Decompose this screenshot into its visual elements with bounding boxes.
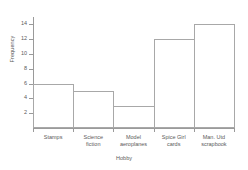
x-axis-tick-label-line: aeroplanes bbox=[113, 141, 153, 148]
x-axis-tick-label: Spice Girlcards bbox=[154, 134, 194, 148]
x-axis-tick-label-line: fiction bbox=[73, 141, 113, 148]
bar bbox=[154, 39, 195, 128]
x-axis-title: Hobby bbox=[0, 155, 248, 161]
bar bbox=[194, 24, 235, 128]
x-axis-tick-mark bbox=[154, 128, 155, 132]
x-axis-line bbox=[33, 128, 234, 129]
y-axis-tick-label: 10 bbox=[14, 51, 27, 57]
x-axis-tick-label-line: Man. Utd bbox=[194, 134, 234, 141]
y-axis-tick-label: 14 bbox=[14, 21, 27, 27]
x-axis-tick-mark bbox=[234, 128, 235, 132]
x-axis-tick-label-line: scrapbook bbox=[194, 141, 234, 148]
bar bbox=[33, 84, 74, 128]
x-axis-tick-label: Modelaeroplanes bbox=[113, 134, 153, 148]
y-axis-tick-label: 6 bbox=[14, 81, 27, 87]
x-axis-tick-label: Man. Utdscrapbook bbox=[194, 134, 234, 148]
y-axis-tick-label: 12 bbox=[14, 36, 27, 42]
x-axis-tick-label: Sciencefiction bbox=[73, 134, 113, 148]
bar bbox=[73, 91, 114, 128]
x-axis-tick-label: Stamps bbox=[33, 134, 73, 141]
y-axis-tick-label: 4 bbox=[14, 95, 27, 101]
x-axis-tick-mark bbox=[33, 128, 34, 132]
x-axis-tick-label-line: Stamps bbox=[33, 134, 73, 141]
y-axis-tick-label: 8 bbox=[14, 66, 27, 72]
bar-chart: Frequency 2468101214 StampsSciencefictio… bbox=[0, 0, 248, 170]
x-axis-tick-label-line: Model bbox=[113, 134, 153, 141]
x-axis-tick-label-line: Spice Girl bbox=[154, 134, 194, 141]
x-axis-tick-mark bbox=[73, 128, 74, 132]
plot-area bbox=[33, 17, 234, 128]
x-axis-tick-mark bbox=[113, 128, 114, 132]
bar bbox=[113, 106, 154, 128]
x-axis-tick-label-line: cards bbox=[154, 141, 194, 148]
y-axis-tick-label: 2 bbox=[14, 110, 27, 116]
x-axis-tick-mark bbox=[194, 128, 195, 132]
x-axis-tick-label-line: Science bbox=[73, 134, 113, 141]
